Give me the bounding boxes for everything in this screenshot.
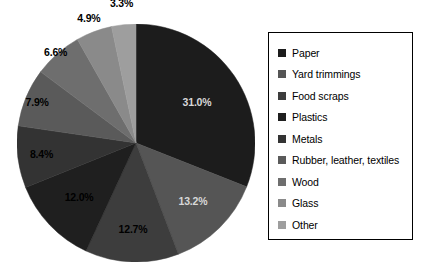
legend-item: Yard trimmings — [278, 64, 412, 86]
legend-item-list: PaperYard trimmingsFood scrapsPlasticsMe… — [278, 42, 412, 236]
legend-item-label: Plastics — [292, 111, 327, 123]
legend-item: Other — [278, 214, 412, 236]
legend-item: Wood — [278, 171, 412, 193]
legend-swatch-icon — [278, 156, 286, 164]
legend-item: Food scraps — [278, 85, 412, 107]
pie-data-label: 8.4% — [30, 148, 53, 160]
legend-item-label: Other — [292, 219, 318, 231]
pie-data-label: 12.7% — [119, 223, 148, 235]
legend-item-label: Paper — [292, 47, 320, 59]
chart-legend: PaperYard trimmingsFood scrapsPlasticsMe… — [268, 32, 413, 240]
legend-swatch-icon — [278, 113, 286, 121]
legend-swatch-icon — [278, 221, 286, 229]
legend-item-label: Wood — [292, 176, 319, 188]
legend-item-label: Food scraps — [292, 90, 349, 102]
legend-swatch-icon — [278, 92, 286, 100]
pie-chart-plot-area: 31.0%13.2%12.7%12.0%8.4%7.9%6.6%4.9%3.3% — [17, 24, 255, 262]
pie-data-label: 13.2% — [179, 195, 208, 207]
legend-swatch-icon — [278, 199, 286, 207]
pie-data-label: 7.9% — [26, 96, 49, 108]
pie-data-label: 31.0% — [183, 96, 212, 108]
legend-item: Paper — [278, 42, 412, 64]
legend-swatch-icon — [278, 135, 286, 143]
legend-item-label: Yard trimmings — [292, 68, 360, 80]
legend-swatch-icon — [278, 70, 286, 78]
legend-item-label: Metals — [292, 133, 322, 145]
legend-item: Plastics — [278, 107, 412, 129]
pie-chart-figure: 31.0%13.2%12.7%12.0%8.4%7.9%6.6%4.9%3.3%… — [0, 0, 425, 278]
legend-swatch-icon — [278, 49, 286, 57]
pie-data-label: 12.0% — [65, 191, 94, 203]
pie-data-label: 4.9% — [77, 12, 100, 24]
legend-item-label: Rubber, leather, textiles — [292, 154, 399, 166]
pie-data-label: 3.3% — [110, 0, 133, 9]
pie-data-label: 6.6% — [44, 46, 67, 58]
legend-item: Metals — [278, 128, 412, 150]
legend-item: Glass — [278, 193, 412, 215]
legend-item: Rubber, leather, textiles — [278, 150, 412, 172]
legend-item-label: Glass — [292, 197, 318, 209]
legend-swatch-icon — [278, 178, 286, 186]
